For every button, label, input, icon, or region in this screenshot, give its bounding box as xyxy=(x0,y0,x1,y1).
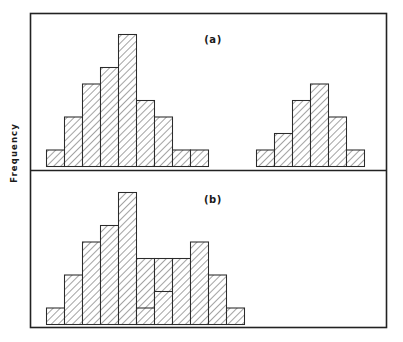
histogram-bar xyxy=(101,226,119,325)
figure-container: Frequency (a) (b) xyxy=(0,0,403,342)
histogram-bar xyxy=(47,150,65,167)
histogram-bar xyxy=(155,292,173,325)
histogram-bar xyxy=(83,84,101,167)
histogram-bar xyxy=(155,117,173,167)
histogram-bar xyxy=(83,242,101,325)
histogram-bar xyxy=(65,117,83,167)
histogram-bar xyxy=(257,150,275,167)
histogram-bar xyxy=(209,275,227,325)
histogram-bar xyxy=(173,259,191,325)
histogram-chart: (a) (b) xyxy=(0,0,403,342)
y-axis-label: Frequency xyxy=(9,103,19,203)
panel-b-bars xyxy=(47,193,245,325)
histogram-bar xyxy=(293,101,311,167)
histogram-bar xyxy=(191,242,209,325)
histogram-bar xyxy=(101,68,119,167)
histogram-bar xyxy=(47,308,65,325)
histogram-bar xyxy=(137,308,155,325)
histogram-bar xyxy=(227,308,245,325)
histogram-bar xyxy=(311,84,329,167)
histogram-bar xyxy=(173,150,191,167)
panel-label-a: (a) xyxy=(204,34,222,45)
panel-label-b: (b) xyxy=(204,194,222,205)
histogram-bar xyxy=(119,193,137,325)
histogram-bar xyxy=(119,35,137,167)
histogram-bar xyxy=(191,150,209,167)
histogram-bar xyxy=(137,101,155,167)
histogram-bar xyxy=(347,150,365,167)
histogram-bar xyxy=(275,134,293,167)
histogram-bar xyxy=(329,117,347,167)
histogram-bar xyxy=(65,275,83,325)
panel-a-bars xyxy=(47,35,365,167)
